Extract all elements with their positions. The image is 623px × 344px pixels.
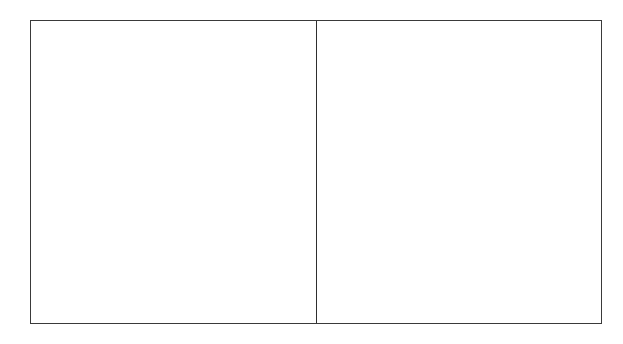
two-panel-frame <box>30 20 602 324</box>
left-panel <box>31 21 317 323</box>
right-panel <box>317 21 601 323</box>
